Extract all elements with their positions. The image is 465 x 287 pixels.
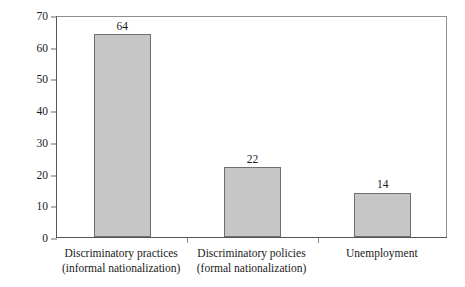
y-tick-label: 0 (42, 233, 48, 245)
y-tick-mark (51, 80, 57, 81)
bar-value-label: 14 (377, 179, 389, 191)
x-category-label-line1: Discriminatory policies (197, 247, 305, 259)
x-category-label-line2: (formal nationalization) (186, 261, 316, 276)
x-category-label: Discriminatory policies(formal nationali… (186, 246, 316, 276)
x-tick-mark (318, 237, 319, 243)
y-tick-label: 30 (37, 138, 49, 150)
y-tick-mark (51, 17, 57, 18)
bar: 64 (94, 34, 151, 237)
bar-chart-figure: Percentage of responses 010203040506070 … (0, 0, 465, 287)
y-tick-label: 60 (37, 43, 49, 55)
bar: 22 (224, 167, 281, 237)
x-category-label-line2: (informal nationalization) (56, 261, 186, 276)
bar-value-label: 64 (116, 21, 128, 33)
y-tick-label: 20 (37, 170, 49, 182)
plot-area: 010203040506070 642214 (56, 16, 447, 238)
y-tick-mark (51, 207, 57, 208)
x-category-label-line1: Unemployment (346, 247, 418, 259)
y-tick-mark (51, 239, 57, 240)
x-category-label-line1: Discriminatory practices (64, 247, 177, 259)
y-tick-mark (51, 48, 57, 49)
x-category-label: Unemployment (317, 246, 447, 261)
y-tick-label: 50 (37, 75, 49, 87)
x-tick-mark (187, 237, 188, 243)
y-tick-mark (51, 175, 57, 176)
bar-value-label: 22 (247, 154, 259, 166)
y-tick-label: 10 (37, 202, 49, 214)
y-tick-mark (51, 112, 57, 113)
y-tick-label: 40 (37, 106, 49, 118)
bar: 14 (354, 193, 411, 237)
y-tick-label: 70 (37, 11, 49, 23)
x-category-label: Discriminatory practices(informal nation… (56, 246, 186, 276)
y-tick-mark (51, 143, 57, 144)
